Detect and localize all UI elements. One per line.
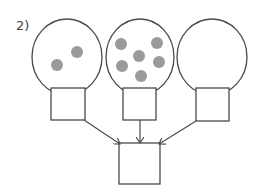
dot <box>115 38 127 50</box>
balloon-box <box>51 88 85 120</box>
dot <box>71 46 83 58</box>
dot <box>151 37 163 49</box>
arrow <box>84 120 120 144</box>
dot <box>135 70 147 82</box>
dot <box>153 56 165 68</box>
dot <box>116 60 128 72</box>
balloons-group <box>32 19 247 121</box>
arrow <box>159 121 196 144</box>
balloon-right <box>177 19 247 121</box>
dot <box>133 50 145 62</box>
balloon-middle <box>106 19 174 120</box>
balloon-outline <box>32 19 102 95</box>
diagram-canvas <box>0 0 258 195</box>
balloon-box <box>123 88 156 120</box>
balloon-left <box>32 19 102 120</box>
target-group <box>119 143 160 184</box>
balloon-outline <box>177 19 247 95</box>
balloon-box <box>196 88 229 121</box>
arrows-group <box>84 120 196 144</box>
dot <box>51 59 63 71</box>
target-box <box>119 143 160 184</box>
